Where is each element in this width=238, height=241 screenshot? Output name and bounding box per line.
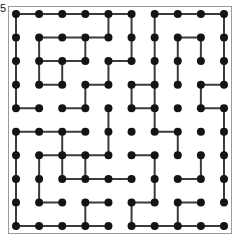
- lattice-dot: [104, 128, 112, 136]
- lattice-dot: [58, 128, 66, 136]
- lattice-dot: [35, 128, 43, 136]
- lattice-dot: [128, 57, 136, 65]
- lattice-dot: [58, 198, 66, 206]
- lattice-dot: [12, 34, 20, 42]
- figure-container: 5: [0, 0, 238, 241]
- lattice-dot: [81, 57, 89, 65]
- lattice-dot: [58, 34, 66, 42]
- lattice-dot: [12, 198, 20, 206]
- lattice-dot: [174, 81, 182, 89]
- lattice-dot: [197, 128, 205, 136]
- lattice-dot: [197, 222, 205, 230]
- lattice-dot: [151, 198, 159, 206]
- lattice-dot: [81, 104, 89, 112]
- lattice-dot: [35, 34, 43, 42]
- lattice-dot: [58, 10, 66, 18]
- lattice-dot: [35, 81, 43, 89]
- lattice-dot: [12, 81, 20, 89]
- lattice-dot: [35, 175, 43, 183]
- lattice-dot: [174, 175, 182, 183]
- lattice-dot: [174, 222, 182, 230]
- lattice-dot: [174, 128, 182, 136]
- lattice-dot: [151, 10, 159, 18]
- lattice-dot: [81, 198, 89, 206]
- lattice-dot: [151, 81, 159, 89]
- lattice-dot: [197, 10, 205, 18]
- lattice-dot: [81, 222, 89, 230]
- lattice-dot: [12, 10, 20, 18]
- lattice-dot: [197, 198, 205, 206]
- lattice-dot: [35, 10, 43, 18]
- lattice-dot: [174, 104, 182, 112]
- lattice-dot: [81, 34, 89, 42]
- lattice-dot: [220, 175, 228, 183]
- lattice-dot: [220, 34, 228, 42]
- lattice-dot: [197, 175, 205, 183]
- lattice-dot: [220, 10, 228, 18]
- lattice-dot: [174, 57, 182, 65]
- lattice-dot: [128, 81, 136, 89]
- lattice-dot: [220, 198, 228, 206]
- lattice-dot: [220, 57, 228, 65]
- lattice-dot: [197, 81, 205, 89]
- lattice-dot: [151, 34, 159, 42]
- lattice-dot: [151, 175, 159, 183]
- lattice-dot: [128, 175, 136, 183]
- lattice-dot: [174, 10, 182, 18]
- dot-lattice-diagram: [8, 6, 232, 234]
- lattice-dot: [104, 222, 112, 230]
- lattice-dot: [151, 128, 159, 136]
- lattice-dot: [104, 104, 112, 112]
- lattice-dot: [12, 175, 20, 183]
- lattice-dot: [58, 104, 66, 112]
- lattice-dot: [104, 175, 112, 183]
- lattice-dot: [197, 104, 205, 112]
- lattice-dot: [220, 104, 228, 112]
- dots-layer: [12, 10, 228, 230]
- lattice-dot: [128, 128, 136, 136]
- edges-layer: [16, 14, 224, 226]
- lattice-dot: [220, 81, 228, 89]
- lattice-dot: [58, 151, 66, 159]
- lattice-dot: [35, 222, 43, 230]
- lattice-dot: [104, 198, 112, 206]
- lattice-dot: [12, 104, 20, 112]
- lattice-dot: [104, 57, 112, 65]
- lattice-dot: [35, 104, 43, 112]
- lattice-dot: [81, 10, 89, 18]
- lattice-dot: [35, 57, 43, 65]
- lattice-dot: [58, 175, 66, 183]
- lattice-dot: [35, 198, 43, 206]
- lattice-dot: [128, 10, 136, 18]
- lattice-dot: [151, 151, 159, 159]
- lattice-dot: [104, 151, 112, 159]
- lattice-dot: [12, 57, 20, 65]
- lattice-dot: [104, 81, 112, 89]
- lattice-dot: [151, 57, 159, 65]
- lattice-dot: [220, 151, 228, 159]
- lattice-dot: [81, 128, 89, 136]
- lattice-dot: [197, 34, 205, 42]
- lattice-dot: [151, 104, 159, 112]
- lattice-dot: [174, 34, 182, 42]
- figure-caption-number: 5: [0, 2, 6, 14]
- lattice-dot: [58, 57, 66, 65]
- lattice-dot: [174, 198, 182, 206]
- lattice-dot: [174, 151, 182, 159]
- lattice-dot: [104, 10, 112, 18]
- lattice-dot: [12, 128, 20, 136]
- lattice-dot: [81, 151, 89, 159]
- lattice-dot: [220, 222, 228, 230]
- lattice-dot: [151, 222, 159, 230]
- lattice-dot: [12, 151, 20, 159]
- lattice-dot: [197, 57, 205, 65]
- lattice-dot: [128, 104, 136, 112]
- lattice-dot: [128, 198, 136, 206]
- lattice-dot: [12, 222, 20, 230]
- lattice-dot: [220, 128, 228, 136]
- lattice-dot: [128, 151, 136, 159]
- lattice-dot: [35, 151, 43, 159]
- lattice-dot: [128, 34, 136, 42]
- lattice-dot: [197, 151, 205, 159]
- lattice-dot: [128, 222, 136, 230]
